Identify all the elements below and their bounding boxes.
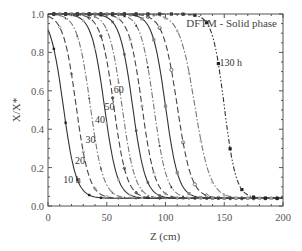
data-marker: [176, 171, 179, 174]
data-marker: [176, 29, 179, 32]
data-marker: [100, 167, 102, 169]
data-marker: [82, 151, 84, 153]
curve-label: 20: [75, 155, 85, 166]
data-marker: [129, 157, 131, 159]
curve-label: 50: [104, 101, 114, 112]
data-marker: [147, 66, 149, 68]
chart-annotation: DFTM - Solid phase: [186, 17, 277, 29]
curve-labels: 10 h2030405060130 h: [63, 57, 242, 185]
data-marker: [199, 196, 202, 199]
data-marker: [106, 29, 108, 31]
x-tick-label: 200: [275, 212, 291, 223]
y-tick-label: 0.4: [31, 124, 45, 135]
x-tick-label: 100: [158, 212, 174, 223]
data-marker: [240, 188, 243, 191]
data-marker: [117, 80, 119, 82]
x-tick-label: 150: [216, 212, 232, 223]
data-marker: [135, 24, 137, 26]
data-marker: [123, 53, 125, 55]
data-marker: [117, 18, 119, 20]
curve-label: 130 h: [220, 57, 243, 68]
data-marker: [158, 144, 160, 146]
data-marker: [129, 194, 131, 196]
data-marker: [141, 197, 143, 199]
chart: 0501001502000.00.20.40.60.81.0 10 h20304…: [0, 0, 302, 251]
data-marker: [59, 26, 61, 28]
data-marker: [140, 17, 143, 20]
data-marker: [252, 195, 255, 198]
y-tick-label: 0.6: [31, 86, 44, 97]
data-marker: [211, 197, 214, 200]
y-tick-label: 0.2: [31, 163, 44, 174]
data-marker: [229, 147, 232, 150]
data-marker: [88, 194, 90, 196]
curve-label: 40: [95, 114, 105, 125]
y-tick-label: 0.8: [31, 47, 44, 58]
data-marker: [106, 122, 108, 124]
data-marker: [170, 68, 173, 71]
data-marker: [82, 20, 84, 22]
data-marker: [193, 183, 196, 186]
data-marker: [170, 197, 172, 199]
curve-label: 60: [114, 84, 124, 95]
data-marker: [117, 178, 119, 180]
data-marker: [264, 197, 267, 200]
curve-label: 30: [86, 134, 96, 145]
data-marker: [106, 196, 108, 198]
data-marker: [158, 194, 160, 196]
x-tick-label: 0: [45, 212, 50, 223]
x-tick-label: 50: [102, 212, 113, 223]
data-marker: [199, 138, 202, 141]
data-marker: [100, 197, 102, 199]
axes: 0501001502000.00.20.40.60.81.0: [31, 9, 291, 223]
data-marker: [276, 197, 279, 200]
data-marker: [88, 97, 90, 99]
data-marker: [147, 181, 149, 183]
data-marker: [53, 48, 55, 50]
data-marker: [164, 105, 167, 108]
data-marker: [141, 189, 143, 191]
y-tick-label: 0.0: [31, 201, 44, 212]
y-axis-title: X/X*: [10, 98, 22, 122]
y-tick-label: 1.0: [31, 9, 44, 20]
data-marker: [187, 192, 190, 195]
data-marker: [187, 71, 190, 74]
data-marker: [64, 122, 66, 124]
data-marker: [152, 38, 155, 41]
curve-label: 10 h: [63, 174, 81, 185]
data-marker: [111, 21, 113, 23]
data-marker: [94, 48, 96, 50]
data-marker: [223, 197, 226, 200]
x-axis-title: Z (cm): [150, 230, 181, 243]
data-marker: [135, 129, 137, 131]
